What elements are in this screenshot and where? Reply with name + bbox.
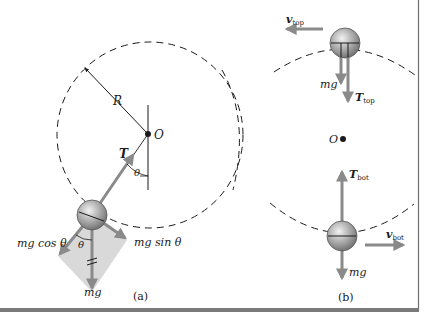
panel-a: R O T θ θ mg cos θ mg sin θ mg (a)	[17, 42, 243, 303]
label-center: O	[329, 133, 338, 146]
label-t-bot: Tbot	[349, 168, 369, 182]
frame-bottom-border	[0, 308, 419, 312]
label-tension: T	[119, 147, 129, 161]
ball-a	[77, 200, 107, 230]
label-pivot: O	[154, 128, 164, 142]
label-radius: R	[112, 94, 122, 108]
label-angle-bottom: θ	[78, 239, 84, 250]
figure-canvas: R O T θ θ mg cos θ mg sin θ mg (a)	[0, 0, 431, 326]
label-mg-bot: mg	[349, 266, 366, 279]
label-mg-sin: mg sin θ	[134, 236, 182, 249]
label-mg: mg	[84, 286, 101, 299]
center-dot	[340, 136, 346, 142]
label-v-top: vtop	[286, 13, 304, 27]
caption-a: (a)	[133, 290, 148, 303]
pivot-dot	[145, 131, 151, 137]
label-angle-top: θ	[134, 167, 140, 178]
label-mg-top: mg	[320, 78, 337, 91]
label-t-top: Ttop	[355, 91, 375, 105]
panel-b: vtop mg Ttop O Tbot vbot mg (b)	[222, 13, 415, 304]
label-v-bot: vbot	[386, 228, 404, 242]
label-mg-cos: mg cos θ	[17, 237, 67, 250]
caption-b: (b)	[338, 291, 354, 304]
